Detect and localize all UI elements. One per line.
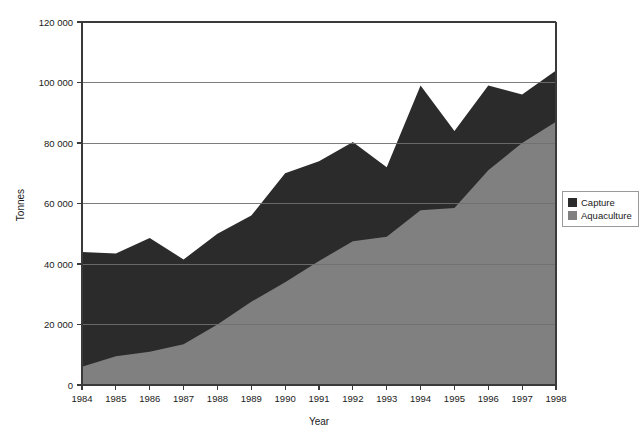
x-tick-label: 1990: [275, 393, 296, 404]
x-tick-label: 1986: [139, 393, 160, 404]
x-tick-label: 1985: [105, 393, 126, 404]
x-tick-label: 1995: [444, 393, 465, 404]
x-tick-label: 1993: [376, 393, 397, 404]
legend-label-aquaculture: Aquaculture: [581, 210, 632, 221]
x-tick-label: 1998: [545, 393, 566, 404]
x-axis-title: Year: [309, 416, 330, 427]
y-tick-label: 0: [68, 380, 73, 391]
chart-legend: Capture Aquaculture: [562, 191, 639, 227]
y-tick-label: 120 000: [39, 17, 73, 28]
y-tick-label: 40 000: [44, 259, 73, 270]
legend-swatch-capture: [568, 198, 577, 207]
x-tick-label: 1994: [410, 393, 431, 404]
area-chart: 020 00040 00060 00080 000100 000120 000 …: [0, 0, 644, 436]
x-tick-label: 1989: [241, 393, 262, 404]
y-tick-label: 60 000: [44, 198, 73, 209]
x-tick-label: 1997: [512, 393, 533, 404]
x-tick-label: 1992: [342, 393, 363, 404]
y-tick-label: 20 000: [44, 319, 73, 330]
y-axis-title: Tonnes: [15, 189, 26, 221]
x-tick-label: 1987: [173, 393, 194, 404]
x-tick-label: 1988: [207, 393, 228, 404]
x-tick-label: 1996: [478, 393, 499, 404]
x-tick-label: 1991: [308, 393, 329, 404]
x-tick-label: 1984: [71, 393, 92, 404]
y-tick-label: 100 000: [39, 77, 73, 88]
plot-areas: [82, 70, 556, 385]
chart-canvas: 020 00040 00060 00080 000100 000120 000 …: [0, 0, 644, 436]
x-axis-ticks: 1984198519861987198819891990199119921993…: [71, 385, 566, 404]
y-axis-ticks: 020 00040 00060 00080 000100 000120 000: [39, 17, 82, 391]
legend-label-capture: Capture: [581, 197, 615, 208]
legend-swatch-aquaculture: [568, 211, 577, 220]
legend-item-capture: Capture: [568, 196, 632, 209]
y-tick-label: 80 000: [44, 138, 73, 149]
legend-item-aquaculture: Aquaculture: [568, 209, 632, 222]
